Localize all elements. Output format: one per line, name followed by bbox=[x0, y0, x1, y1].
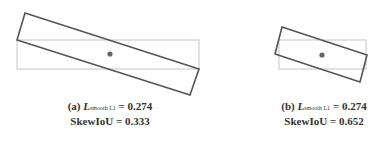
loss-subscript: smooth L1 bbox=[90, 105, 116, 111]
panel-label: (b) bbox=[281, 100, 294, 112]
panel-b-diagram bbox=[275, 27, 367, 82]
caption-a-line2: SkewIoU = 0.333 bbox=[50, 115, 170, 128]
caption-b-line1: (b) Lsmooth L1 = 0.274 bbox=[264, 100, 384, 115]
center-dot-a bbox=[107, 51, 112, 56]
panel-label: (a) bbox=[68, 100, 81, 112]
center-dot-b bbox=[319, 52, 324, 57]
metric-value: = 0.333 bbox=[116, 115, 150, 127]
loss-subscript: smooth L1 bbox=[304, 105, 330, 111]
loss-value: = 0.274 bbox=[333, 100, 367, 112]
caption-b: (b) Lsmooth L1 = 0.274 SkewIoU = 0.652 bbox=[264, 100, 384, 128]
metric-label: SkewIoU bbox=[284, 115, 327, 127]
caption-a: (a) Lsmooth L1 = 0.274 SkewIoU = 0.333 bbox=[50, 100, 170, 128]
metric-value: = 0.652 bbox=[330, 115, 364, 127]
metric-label: SkewIoU bbox=[70, 115, 113, 127]
panel-a-diagram bbox=[17, 13, 199, 95]
loss-value: = 0.274 bbox=[119, 100, 153, 112]
caption-b-line2: SkewIoU = 0.652 bbox=[264, 115, 384, 128]
loss-symbol: L bbox=[83, 100, 90, 112]
caption-a-line1: (a) Lsmooth L1 = 0.274 bbox=[50, 100, 170, 115]
